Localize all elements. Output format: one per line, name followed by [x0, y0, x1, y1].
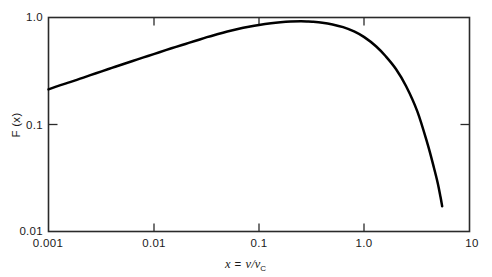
x-tick-label-4: 10 [465, 237, 478, 249]
x-tick-label-1: 0.01 [142, 237, 166, 249]
x-tick-label-0: 0.001 [33, 237, 63, 249]
spectrum-curve [49, 21, 443, 206]
y-tick-label-0: 1.0 [26, 11, 43, 23]
x-axis-ticks-bottom [154, 224, 364, 232]
x-axis-label-prefix: x [224, 257, 231, 271]
x-axis-label: x=ν/νC [224, 257, 266, 273]
x-axis-label-equals: = [235, 258, 242, 270]
y-tick-label-2: 0.01 [19, 225, 43, 237]
y-axis-label: F (x) [10, 112, 22, 137]
figure-container: 0.001 0.01 0.1 1.0 10 1.0 0.1 0.01 F (x)… [0, 0, 492, 277]
y-tick-labels: 1.0 0.1 0.01 [19, 11, 43, 237]
x-tick-label-3: 1.0 [356, 237, 373, 249]
x-axis-label-subscript: C [260, 264, 266, 273]
synchrotron-spectrum-chart: 0.001 0.01 0.1 1.0 10 1.0 0.1 0.01 F (x)… [0, 0, 492, 277]
x-tick-labels: 0.001 0.01 0.1 1.0 10 [33, 237, 479, 249]
x-axis-label-group: x=ν/νC [224, 257, 266, 273]
y-tick-label-1: 0.1 [26, 119, 43, 131]
x-tick-label-2: 0.1 [251, 237, 268, 249]
plot-frame [49, 18, 470, 232]
